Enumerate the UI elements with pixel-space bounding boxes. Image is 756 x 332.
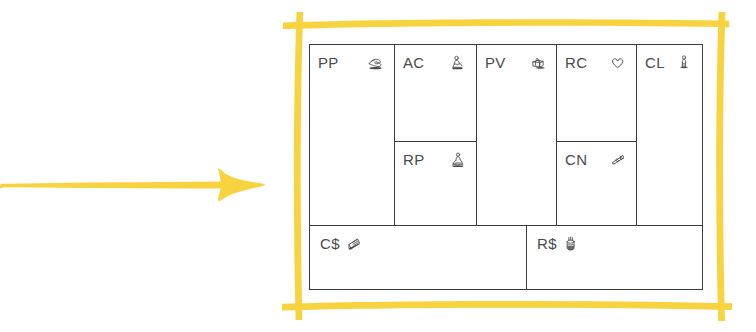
- canvas-block-revenue-label: R$: [537, 236, 557, 251]
- canvas-block-revenue-header: R$: [527, 226, 702, 256]
- canvas-block-pp[interactable]: PP: [310, 45, 394, 225]
- channels-scroll-icon: [607, 149, 629, 171]
- canvas-block-pv-header: PV: [477, 45, 556, 75]
- activities-person-icon: [447, 52, 469, 74]
- canvas-top-row: PP: [310, 45, 702, 225]
- canvas-block-rc-label: RC: [565, 55, 587, 70]
- canvas-block-cl[interactable]: CL: [637, 45, 702, 225]
- canvas-column-relationships-channels: RC CN: [556, 45, 636, 225]
- canvas-column-activities-resources: AC: [394, 45, 476, 225]
- canvas-block-ac-label: AC: [403, 55, 424, 70]
- canvas-column-value-proposition: PV: [476, 45, 556, 225]
- canvas-block-rc-header: RC: [557, 45, 636, 75]
- canvas-block-cost[interactable]: C$: [310, 226, 526, 289]
- canvas-bottom-row: C$: [310, 225, 702, 289]
- resources-person-icon: [447, 149, 469, 171]
- canvas-column-customers: CL: [636, 45, 702, 225]
- canvas-block-ac-header: AC: [395, 45, 476, 75]
- canvas-block-cn-header: CN: [557, 142, 636, 172]
- canvas-block-revenue[interactable]: R$: [526, 226, 702, 289]
- canvas-column-partners: PP: [310, 45, 394, 225]
- value-gift-package-icon: [527, 52, 549, 74]
- customer-person-icon: [673, 52, 695, 74]
- canvas-block-ac[interactable]: AC: [395, 45, 476, 141]
- diagram-stage: PP: [0, 0, 756, 332]
- canvas-block-cn[interactable]: CN: [557, 141, 636, 225]
- yellow-arrow-icon: [0, 155, 270, 213]
- canvas-block-cost-header: C$: [310, 226, 526, 256]
- cost-receipt-icon: [343, 233, 365, 255]
- canvas-block-cl-header: CL: [637, 45, 702, 75]
- canvas-block-pp-header: PP: [310, 45, 394, 75]
- relationship-heart-icon: [607, 52, 629, 74]
- canvas-block-rp[interactable]: RP: [395, 141, 476, 225]
- canvas-block-pv-label: PV: [485, 55, 506, 70]
- revenue-money-hand-icon: [560, 233, 582, 255]
- canvas-block-rp-header: RP: [395, 142, 476, 172]
- canvas-block-rp-label: RP: [403, 152, 424, 167]
- business-model-canvas: PP: [309, 44, 703, 290]
- canvas-block-cost-label: C$: [320, 236, 340, 251]
- canvas-block-pp-label: PP: [318, 55, 339, 70]
- canvas-block-pv[interactable]: PV: [477, 45, 556, 225]
- canvas-block-cl-label: CL: [645, 55, 665, 70]
- partnership-handshake-icon: [365, 52, 387, 74]
- yellow-arrow: [0, 155, 270, 213]
- canvas-block-rc[interactable]: RC: [557, 45, 636, 141]
- canvas-block-cn-label: CN: [565, 152, 587, 167]
